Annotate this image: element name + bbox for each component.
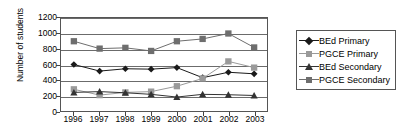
data-point xyxy=(148,48,154,54)
data-point xyxy=(225,30,231,36)
data-point xyxy=(174,38,180,44)
legend-item-pgce-primary[interactable]: PGCE Primary xyxy=(299,47,392,60)
legend-item-pgce-secondary[interactable]: PGCE Secondary xyxy=(299,73,392,86)
x-tick-label: 2003 xyxy=(238,115,272,124)
data-point xyxy=(174,83,180,89)
x-tick-mark xyxy=(255,112,256,116)
x-tick-mark xyxy=(177,112,178,116)
data-point xyxy=(122,65,129,72)
data-point xyxy=(225,69,232,76)
legend-label: PGCE Primary xyxy=(319,49,378,59)
y-tick-label: 0 xyxy=(17,108,57,116)
legend-key-icon xyxy=(299,61,319,73)
line-chart: Number of students 120010008006004002000… xyxy=(0,0,400,138)
y-tick-mark xyxy=(56,112,60,113)
legend-key-icon xyxy=(299,35,319,47)
y-tick-label: 800 xyxy=(17,45,57,53)
x-tick-mark xyxy=(125,112,126,116)
data-point xyxy=(174,64,181,71)
legend-label: BEd Secondary xyxy=(319,62,382,72)
x-tick-mark xyxy=(203,112,204,116)
y-tick-label: 1200 xyxy=(17,13,57,21)
y-tick-label: 1000 xyxy=(17,29,57,37)
x-tick-mark xyxy=(99,112,100,116)
legend-key-icon xyxy=(299,48,319,60)
series-line xyxy=(74,61,254,95)
legend-label: PGCE Secondary xyxy=(319,75,390,85)
data-point xyxy=(148,66,155,73)
series-layer xyxy=(61,18,267,111)
data-point xyxy=(251,70,258,77)
legend-key-icon xyxy=(299,74,319,86)
y-tick-label: 200 xyxy=(17,92,57,100)
x-tick-mark xyxy=(151,112,152,116)
legend-item-bed-secondary[interactable]: BEd Secondary xyxy=(299,60,392,73)
data-point xyxy=(122,45,128,51)
data-point xyxy=(96,45,102,51)
x-tick-mark xyxy=(229,112,230,116)
data-point xyxy=(199,75,205,81)
legend-item-bed-primary[interactable]: BEd Primary xyxy=(299,34,392,47)
chart-legend: BEd PrimaryPGCE PrimaryBEd SecondaryPGCE… xyxy=(296,30,396,90)
legend-label: BEd Primary xyxy=(319,36,370,46)
y-tick-label: 400 xyxy=(17,76,57,84)
data-point xyxy=(199,36,205,42)
data-point xyxy=(71,38,77,44)
plot-area xyxy=(60,17,268,112)
data-point xyxy=(96,68,103,75)
data-point xyxy=(71,61,78,68)
data-point xyxy=(251,44,257,50)
data-point xyxy=(225,58,231,64)
y-tick-label: 600 xyxy=(17,61,57,69)
x-tick-mark xyxy=(73,112,74,116)
data-point xyxy=(251,64,257,70)
